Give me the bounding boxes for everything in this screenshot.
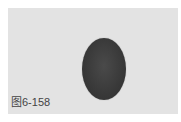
figure-caption: 图6-158 bbox=[11, 96, 50, 108]
dark-ellipse-shape bbox=[82, 38, 126, 100]
